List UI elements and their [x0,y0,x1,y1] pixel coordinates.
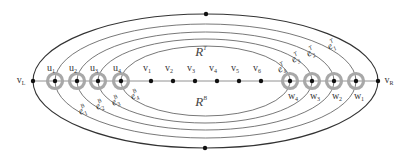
vertex-label-w1: w1 [354,90,364,102]
edge-label-eT2: eT2 [304,44,318,60]
vertex-label-v1: v1 [143,62,151,74]
vertex-label-v5: v5 [231,62,239,74]
edge-label-eT1: eT1 [325,37,339,53]
vertex-v4 [215,79,219,83]
outer-top-vertex [204,12,208,16]
vertex-w1 [354,79,358,83]
vertex-label-v4: v4 [209,62,217,74]
vertex-vR [376,79,380,83]
vertex-label-u3: u3 [90,62,98,74]
vertex-u1 [53,79,57,83]
vertex-label-v6: v6 [253,62,261,74]
region-label-RB: RB [194,94,207,109]
vertex-label-u4: u4 [113,62,121,74]
vertex-u4 [119,79,123,83]
vertex-label-u1: u1 [47,62,55,74]
labels: vLu1u2u3u4v1v2v3v4v5v6w4w3w2w1vReB1eB2eB… [17,37,394,118]
vertex-v2 [171,79,175,83]
vertex-u3 [96,79,100,83]
vertex-vL [31,79,35,83]
vertex-w3 [310,79,314,83]
graph-canvas: vLu1u2u3u4v1v2v3v4v5v6w4w3w2w1vReB1eB2eB… [0,0,406,160]
vertex-label-vL: vL [17,74,26,86]
edge-label-eB4: eB4 [127,87,141,103]
vertex-w4 [288,79,292,83]
vertex-v3 [193,79,197,83]
vertex-w2 [332,79,336,83]
vertex-label-w2: w2 [332,90,342,102]
vertex-label-u2: u2 [69,62,77,74]
vertex-label-w3: w3 [310,90,320,102]
outer-bottom-vertex [203,146,207,150]
vertex-label-v3: v3 [187,62,195,74]
vertex-u2 [75,79,79,83]
vertex-v1 [149,79,153,83]
vertex-label-vR: vR [384,74,393,86]
vertex-label-w4: w4 [288,90,298,102]
vertex-label-v2: v2 [165,62,173,74]
edge-label-eT3: eT3 [289,50,303,66]
graph-diagram: vLu1u2u3u4v1v2v3v4v5v6w4w3w2w1vReB1eB2eB… [0,0,406,160]
vertex-v6 [259,79,263,83]
region-label-RT: RT [194,44,207,59]
vertex-v5 [237,79,241,83]
